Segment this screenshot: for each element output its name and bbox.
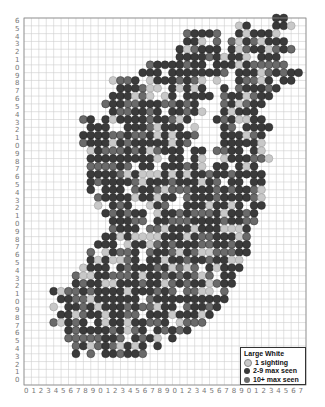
- y-axis-label: 1: [15, 134, 19, 142]
- x-axis-label: 5: [210, 387, 214, 395]
- x-axis-label: 0: [247, 387, 251, 395]
- x-axis-label: 1: [31, 387, 35, 395]
- x-axis-label: 0: [98, 387, 102, 395]
- y-axis-label: 0: [15, 64, 19, 72]
- medium-dot-icon: [244, 377, 250, 383]
- legend-item-few: 2-9 max seen: [244, 367, 302, 376]
- x-axis-label: 8: [83, 387, 87, 395]
- legend: Large White 1 sighting 2-9 max seen 10+ …: [240, 347, 306, 385]
- x-axis-label: 4: [276, 387, 280, 395]
- x-axis-label: 9: [91, 387, 95, 395]
- y-axis-label: 7: [15, 165, 19, 173]
- y-axis-label: 2: [15, 204, 19, 212]
- y-axis-label: 1: [15, 290, 19, 298]
- x-axis-label: 8: [232, 387, 236, 395]
- x-axis-label: 1: [180, 387, 184, 395]
- y-axis-label: 9: [15, 306, 19, 314]
- y-axis-label: 6: [15, 95, 19, 103]
- x-axis-label: 2: [261, 387, 265, 395]
- x-axis-label: 2: [39, 387, 43, 395]
- y-axis-label: 9: [15, 228, 19, 236]
- legend-item-many: 10+ max seen: [244, 376, 302, 385]
- x-axis-label: 7: [76, 387, 80, 395]
- y-axis-label: 6: [15, 17, 19, 25]
- x-axis-label: 5: [135, 387, 139, 395]
- y-axis-label: 4: [15, 267, 19, 275]
- y-axis-label: 9: [15, 150, 19, 158]
- y-axis-label: 7: [15, 243, 19, 251]
- y-axis-label: 3: [15, 353, 19, 361]
- x-axis-label: 1: [254, 387, 258, 395]
- y-axis-label: 5: [15, 337, 19, 345]
- x-axis-label: 3: [46, 387, 50, 395]
- sighting-dots: [50, 14, 303, 358]
- y-axis-label: 2: [15, 126, 19, 134]
- y-axis-label: 4: [15, 111, 19, 119]
- x-axis-label: 6: [69, 387, 73, 395]
- y-axis-label: 9: [15, 72, 19, 80]
- x-axis-label: 5: [61, 387, 65, 395]
- y-axis-label: 5: [15, 259, 19, 267]
- x-axis-label: 1: [106, 387, 110, 395]
- y-axis-label: 1: [15, 368, 19, 376]
- x-axis-label: 6: [143, 387, 147, 395]
- y-axis-label: 3: [15, 119, 19, 127]
- y-axis-label: 6: [15, 251, 19, 259]
- y-axis-label: 5: [15, 103, 19, 111]
- y-axis-label: 5: [15, 25, 19, 33]
- y-axis-label: 7: [15, 322, 19, 330]
- y-axis-label: 3: [15, 40, 19, 48]
- x-axis-label: 7: [150, 387, 154, 395]
- x-axis-label: 5: [284, 387, 288, 395]
- y-axis-label: 4: [15, 189, 19, 197]
- distribution-map: [0, 0, 325, 407]
- x-axis-label: 3: [120, 387, 124, 395]
- legend-title: Large White: [244, 350, 302, 359]
- y-axis-label: 2: [15, 361, 19, 369]
- y-axis-label: 2: [15, 48, 19, 56]
- y-axis-label: 2: [15, 282, 19, 290]
- y-axis-label: 0: [15, 220, 19, 228]
- y-axis-label: 8: [15, 79, 19, 87]
- x-axis-label: 7: [299, 387, 303, 395]
- y-axis-label: 6: [15, 329, 19, 337]
- light-dot-icon: [244, 359, 252, 367]
- y-axis-label: 0: [15, 376, 19, 384]
- y-axis-label: 7: [15, 87, 19, 95]
- x-axis-label: 3: [269, 387, 273, 395]
- x-axis-label: 9: [165, 387, 169, 395]
- x-axis-label: 6: [217, 387, 221, 395]
- x-axis-label: 4: [54, 387, 58, 395]
- y-axis-label: 6: [15, 173, 19, 181]
- x-axis-label: 9: [239, 387, 243, 395]
- x-axis-label: 2: [187, 387, 191, 395]
- x-axis-label: 7: [224, 387, 228, 395]
- x-axis-label: 8: [158, 387, 162, 395]
- y-axis-label: 8: [15, 314, 19, 322]
- y-axis-label: 3: [15, 197, 19, 205]
- y-axis-label: 3: [15, 275, 19, 283]
- x-axis-label: 2: [113, 387, 117, 395]
- x-axis-label: 3: [195, 387, 199, 395]
- y-axis-label: 1: [15, 212, 19, 220]
- x-axis-label: 4: [202, 387, 206, 395]
- y-axis-label: 0: [15, 298, 19, 306]
- y-axis-label: 8: [15, 158, 19, 166]
- x-axis-label: 6: [291, 387, 295, 395]
- x-axis-label: 0: [24, 387, 28, 395]
- x-axis-label: 0: [172, 387, 176, 395]
- x-axis-label: 4: [128, 387, 132, 395]
- y-axis-label: 5: [15, 181, 19, 189]
- legend-item-one: 1 sighting: [244, 359, 302, 368]
- y-axis-label: 0: [15, 142, 19, 150]
- dark-dot-icon: [244, 368, 250, 374]
- y-axis-label: 4: [15, 345, 19, 353]
- y-axis-label: 8: [15, 236, 19, 244]
- y-axis-label: 4: [15, 33, 19, 41]
- y-axis-label: 1: [15, 56, 19, 64]
